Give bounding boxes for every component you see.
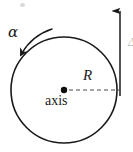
scan-artifact-speck: [20, 3, 25, 7]
diagram-canvas: [0, 0, 133, 152]
physics-figure: α R axis Δ: [0, 0, 133, 152]
radius-label: R: [83, 68, 92, 83]
angular-acceleration-label: α: [8, 25, 18, 40]
axis-label: axis: [45, 94, 68, 108]
angular-acceleration-arrow: [22, 29, 52, 53]
cropped-edge-label: Δ: [128, 36, 133, 48]
